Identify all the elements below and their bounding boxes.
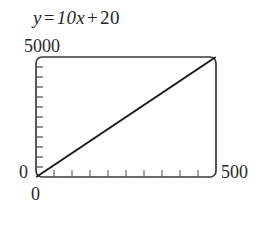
y-axis-max-label: 5000	[24, 36, 60, 56]
equation-lhs: y	[33, 7, 42, 28]
graph-figure: y=10x+20	[0, 0, 265, 225]
plot-area	[36, 57, 216, 177]
plot-svg	[32, 53, 220, 181]
equation-slope-term: 10x	[57, 7, 85, 28]
y-axis-zero-label: 0	[19, 162, 28, 182]
x-axis-zero-label: 0	[31, 184, 40, 204]
equation-equals: =	[42, 7, 57, 28]
x-axis-max-label: 500	[221, 162, 248, 182]
equation-title: y=10x+20	[33, 7, 120, 29]
equation-intercept: 20	[100, 7, 120, 28]
equation-plus: +	[85, 7, 100, 28]
